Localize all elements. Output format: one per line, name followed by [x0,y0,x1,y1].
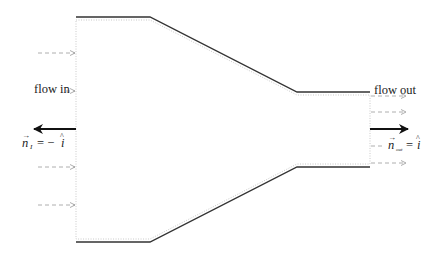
top-wall [76,17,370,92]
bottom-wall [76,167,370,242]
svg-text:out: out [396,147,403,152]
vector-arrow-glyph: → [388,133,396,142]
hat-glyph: ^ [416,134,420,143]
control-volume-boundary [76,20,370,239]
hat-glyph: ^ [60,132,64,141]
svg-text:= −: = − [37,136,54,150]
svg-text:I: I [29,143,33,151]
flow-out-label: flow out [374,83,417,97]
svg-text:=: = [406,138,413,152]
vector-arrow-glyph: → [22,131,30,140]
inlet-normal-label: n → I = − i ^ [22,131,65,151]
outlet-normal-label: n → out = i ^ [388,133,421,152]
flow-in-label: flow in [34,82,71,96]
converging-duct-diagram: flow in flow out n → I = − i ^ n → out =… [0,0,441,257]
